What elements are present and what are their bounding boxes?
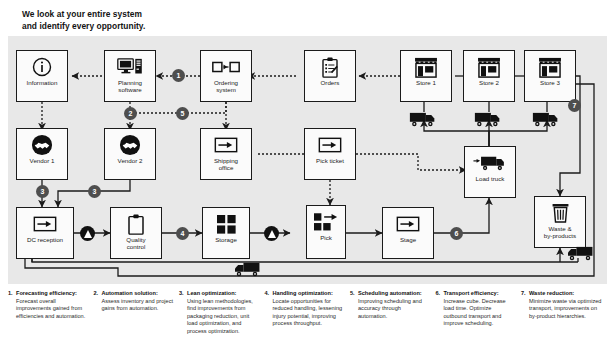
diagram-canvas: We look at your entire system and identi… [0, 0, 615, 362]
clipboard-icon [127, 213, 145, 235]
legend-heading: Lean optimization: [187, 290, 260, 298]
node-load-truck[interactable]: Load truck [464, 146, 516, 198]
document-arrow-icon [396, 213, 420, 235]
node-label: Ordering system [212, 79, 240, 94]
legend-item-5: 5. Scheduling automation: Improving sche… [350, 290, 436, 356]
node-shipping-office[interactable]: Shipping office [200, 128, 252, 180]
legend-text: Using lean methodologies, find improveme… [187, 298, 260, 336]
node-label: Shipping office [212, 157, 240, 172]
node-label: DC reception [25, 236, 65, 243]
legend-text: Minimize waste via optimized transport, … [529, 298, 602, 321]
node-label: Orders [319, 79, 342, 86]
marker-3a[interactable]: 3 [36, 185, 49, 198]
legend-number: 7. [521, 290, 529, 356]
warning-badge-2[interactable] [264, 226, 279, 241]
legend-item-7: 7. Waste reduction: Minimize waste via o… [521, 290, 607, 356]
legend-heading: Automation solution: [102, 290, 175, 298]
node-label: Information [25, 79, 60, 86]
legend-number: 5. [350, 290, 358, 356]
legend-heading: Handling optimization: [273, 290, 346, 298]
node-label: Storage [213, 236, 239, 243]
node-store-1[interactable]: Store 1 [400, 50, 452, 102]
legend-number: 6. [436, 290, 444, 356]
legend-number: 2. [94, 290, 102, 356]
grid-squares-icon [217, 213, 236, 235]
node-label: Vendor 1 [28, 157, 57, 164]
node-label: Pick [318, 234, 334, 241]
node-pick-ticket[interactable]: Pick ticket [304, 128, 356, 180]
marker-6[interactable]: 6 [450, 227, 463, 240]
handshake-icon [31, 134, 53, 156]
node-information[interactable]: Information [16, 50, 68, 102]
node-label: Waste & by-products [542, 225, 578, 240]
delivery-truck-icon-2 [473, 112, 507, 132]
legend-heading: Waste reduction: [529, 290, 602, 298]
warning-triangle-icon [84, 230, 92, 238]
legend-text: Improving scheduling and accuracy throug… [358, 298, 431, 321]
node-label: Stage [398, 236, 418, 243]
node-storage[interactable]: Storage [202, 207, 250, 259]
legend-heading: Scheduling automation: [358, 290, 431, 298]
marker-3b[interactable]: 3 [88, 185, 101, 198]
legend: 1. Forecasting efficiency: Forecast over… [8, 290, 607, 356]
document-arrow-icon [318, 134, 342, 156]
legend-number: 1. [8, 290, 16, 356]
marker-7[interactable]: 7 [568, 99, 581, 112]
node-ordering-system[interactable]: Ordering system [200, 50, 252, 102]
truck-load-icon [473, 152, 507, 174]
legend-item-3: 3. Lean optimization: Using lean methodo… [179, 290, 265, 356]
clipboard-checklist-icon [321, 56, 339, 78]
pick-squares-arrow-icon [314, 211, 338, 233]
legend-number: 3. [179, 290, 187, 356]
storefront-icon [414, 56, 438, 78]
node-vendor-2[interactable]: Vendor 2 [104, 128, 156, 180]
storefront-icon [477, 56, 501, 78]
legend-item-2: 2. Automation solution: Assess inventory… [94, 290, 180, 356]
handshake-icon [119, 134, 141, 156]
legend-text: Forecast overall improvements gained fro… [16, 298, 89, 321]
legend-item-4: 4. Handling optimization: Locate opportu… [265, 290, 351, 356]
return-truck-icon-right [563, 246, 597, 266]
marker-5[interactable]: 5 [176, 107, 189, 120]
node-label: Store 2 [477, 79, 501, 86]
document-arrow-icon [33, 213, 57, 235]
node-planning-software[interactable]: Planning software [104, 50, 156, 102]
node-vendor-1[interactable]: Vendor 1 [16, 128, 68, 180]
node-label: Planning software [116, 79, 144, 94]
node-label: Pick ticket [314, 157, 346, 164]
node-label: Load truck [474, 175, 507, 182]
transfer-boxes-icon [212, 56, 240, 78]
node-pick[interactable]: Pick [306, 205, 346, 259]
return-truck-icon-bottom [230, 262, 264, 282]
marker-1[interactable]: 1 [172, 69, 185, 82]
legend-number: 4. [265, 290, 273, 356]
node-label: Quality control [124, 236, 147, 251]
node-stage[interactable]: Stage [382, 207, 434, 259]
marker-2[interactable]: 2 [124, 107, 137, 120]
node-store-3[interactable]: Store 3 [524, 50, 576, 102]
warning-badge-1[interactable] [80, 226, 95, 241]
legend-item-6: 6. Transport efficiency: Increase cube. … [436, 290, 522, 356]
delivery-truck-icon-1 [408, 112, 442, 132]
node-quality-control[interactable]: Quality control [110, 207, 162, 259]
information-icon [32, 56, 52, 78]
legend-heading: Forecasting efficiency: [16, 290, 89, 298]
node-orders[interactable]: Orders [304, 50, 356, 102]
legend-text: Locate opportunities for reduced handlin… [273, 298, 346, 328]
storefront-icon [538, 56, 562, 78]
node-dc-reception[interactable]: DC reception [16, 207, 74, 259]
warning-triangle-icon [268, 230, 276, 238]
document-arrow-icon [214, 134, 238, 156]
legend-text: Assess inventory and project gains from … [102, 298, 175, 313]
node-waste-byproducts[interactable]: Waste & by-products [534, 196, 586, 248]
delivery-truck-icon-3 [531, 112, 565, 132]
legend-heading: Transport efficiency: [444, 290, 517, 298]
node-label: Vendor 2 [116, 157, 145, 164]
node-label: Store 1 [414, 79, 438, 86]
node-store-2[interactable]: Store 2 [463, 50, 515, 102]
node-label: Store 3 [538, 79, 562, 86]
marker-4[interactable]: 4 [176, 227, 189, 240]
trash-can-icon [552, 202, 569, 224]
computer-icon [117, 56, 143, 78]
legend-item-1: 1. Forecasting efficiency: Forecast over… [8, 290, 94, 356]
